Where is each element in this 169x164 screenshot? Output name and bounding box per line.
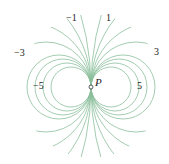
point-p-label: P [94, 76, 102, 88]
level-curve-right-5 [91, 22, 169, 152]
curve-label: −5 [33, 80, 44, 91]
curve-labels: −11−33−55 [14, 12, 159, 91]
curve-label: −3 [14, 47, 25, 58]
level-curve-left-6 [0, 0, 91, 164]
level-curves-diagram: P −11−33−55 [0, 0, 169, 164]
curve-label: 1 [106, 12, 111, 23]
level-curve-left-5 [0, 22, 91, 152]
curve-label: 5 [137, 80, 142, 91]
level-curve-left-1 [43, 63, 91, 111]
level-curves [0, 0, 169, 164]
curve-label: −1 [66, 12, 77, 23]
point-p-marker [89, 85, 93, 89]
curve-label: 3 [154, 46, 159, 57]
level-curve-left-0 [51, 67, 91, 107]
